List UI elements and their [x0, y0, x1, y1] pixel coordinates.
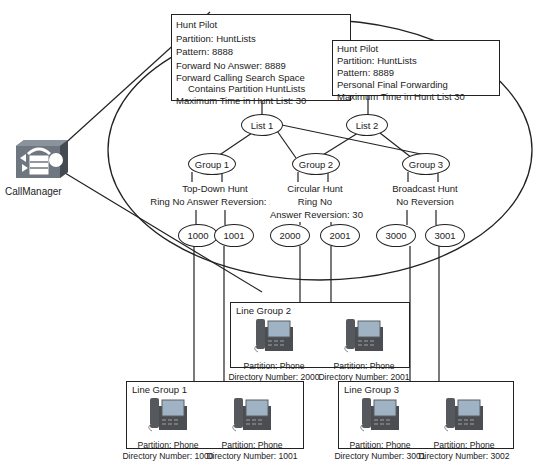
group-1: Group 1	[188, 153, 236, 175]
member-2001: 2001	[320, 224, 360, 247]
rna-reversion: Ring No Answer Reversion: 10	[150, 195, 280, 208]
hunt-list-label: List 2	[356, 120, 379, 131]
rna-reversion: Ring No	[270, 195, 360, 208]
phone-partition: Partition: Phone	[309, 361, 419, 372]
line-group-title: Line Group 1	[132, 384, 187, 395]
member-number: 1000	[187, 230, 208, 241]
hunt-algorithm: Top-Down Hunt	[150, 182, 280, 195]
hunt-pilot-pattern: Pattern: 8888	[176, 45, 346, 59]
member-3001: 3001	[425, 224, 465, 247]
callmanager-router-icon	[12, 138, 68, 180]
group-label: Group 3	[409, 159, 443, 170]
rna-reversion-value: Answer Reversion: 30	[270, 208, 360, 221]
hunt-pilot-forward-css-partition: Contains Partition HuntLists	[176, 83, 346, 94]
line-group-2: Line Group 2 Partition: Phone Directory …	[230, 302, 410, 368]
ip-phone-icon	[230, 396, 274, 434]
hunt-pilot-partition: Partition: HuntLists	[176, 32, 346, 46]
line-group-1: Line Group 1 Partition: Phone Directory …	[126, 381, 304, 449]
member-1000: 1000	[178, 224, 218, 247]
line-group-3: Line Group 3 Partition: Phone Directory …	[338, 381, 514, 449]
hunt-list-2: List 2	[346, 114, 388, 136]
ip-phone-icon	[146, 396, 190, 434]
hunt-pilot-title: Hunt Pilot	[337, 43, 495, 55]
phone-directory-number: Directory Number: 1001	[197, 451, 307, 462]
member-number: 2001	[329, 230, 350, 241]
group-2-algorithm: Circular Hunt Ring No Answer Reversion: …	[270, 182, 360, 221]
hunt-list-1: List 1	[241, 114, 283, 136]
hunt-pilot-forward-no-answer: Forward No Answer: 8889	[176, 59, 346, 73]
phone-3002: Partition: Phone Directory Number: 3002	[409, 396, 519, 462]
phone-partition: Partition: Phone	[197, 440, 307, 451]
hunt-pilot-title: Hunt Pilot	[176, 18, 346, 32]
member-number: 3000	[385, 230, 406, 241]
group-3-algorithm: Broadcast Hunt No Reversion	[380, 182, 470, 208]
hunt-pilot-8889: Hunt Pilot Partition: HuntLists Pattern:…	[332, 40, 500, 96]
hunt-pilot-forwarding: Personal Final Forwarding	[337, 79, 495, 91]
member-number: 1001	[223, 230, 244, 241]
hunt-list-label: List 1	[251, 120, 274, 131]
hunt-pilot-pattern: Pattern: 8889	[337, 67, 495, 79]
member-number: 2000	[279, 230, 300, 241]
ip-phone-icon	[252, 317, 296, 355]
hunt-pilot-max-time: Maximum Time in Hunt List 30	[337, 91, 495, 103]
ip-phone-icon	[358, 396, 402, 434]
phone-directory-number: Directory Number: 3002	[409, 451, 519, 462]
member-2000: 2000	[270, 224, 310, 247]
callmanager-label: CallManager	[5, 186, 62, 197]
hunt-algorithm: Circular Hunt	[270, 182, 360, 195]
group-label: Group 2	[299, 159, 333, 170]
line-group-title: Line Group 3	[344, 384, 399, 395]
group-3: Group 3	[402, 153, 450, 175]
member-3000: 3000	[376, 224, 416, 247]
hunt-pilot-partition: Partition: HuntLists	[337, 55, 495, 67]
hunt-pilot-forward-css: Forward Calling Search Space	[176, 72, 346, 83]
line-group-title: Line Group 2	[236, 305, 291, 316]
group-label: Group 1	[195, 159, 229, 170]
ip-phone-icon	[342, 317, 386, 355]
group-1-algorithm: Top-Down Hunt Ring No Answer Reversion: …	[150, 182, 280, 208]
phone-2001: Partition: Phone Directory Number: 2001	[309, 317, 419, 383]
ip-phone-icon	[442, 396, 486, 434]
hunt-pilot-max-time: Maximum Time in Hunt List: 30	[176, 94, 346, 108]
hunt-pilot-8888: Hunt Pilot Partition: HuntLists Pattern:…	[171, 14, 351, 101]
member-number: 3001	[434, 230, 455, 241]
rna-reversion: No Reversion	[380, 195, 470, 208]
phone-1001: Partition: Phone Directory Number: 1001	[197, 396, 307, 462]
phone-partition: Partition: Phone	[409, 440, 519, 451]
hunt-algorithm: Broadcast Hunt	[380, 182, 470, 195]
member-1001: 1001	[214, 224, 254, 247]
group-2: Group 2	[292, 153, 340, 175]
